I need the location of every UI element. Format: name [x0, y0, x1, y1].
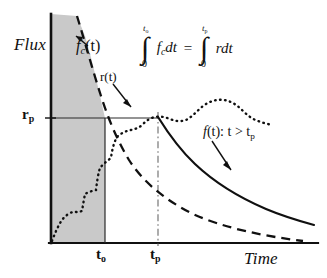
- x-tick-label-tp: tp: [150, 247, 161, 264]
- right-integral-symbol-group: tp ∫ 0: [199, 26, 212, 68]
- right-lower-limit: 0: [201, 58, 206, 69]
- rp-base: r: [22, 106, 29, 122]
- y-tick-label-rp: rp: [22, 107, 34, 124]
- flux-time-figure: Flux Time rp to tp fc(t) r(t) f(t): t > …: [0, 0, 327, 278]
- integral-equation: to ∫ 0 fcdt = tp ∫ 0 rdt: [140, 26, 233, 68]
- equals-sign: =: [181, 40, 195, 57]
- curve-label-r: r(t): [100, 70, 117, 83]
- leader-f: [212, 141, 231, 170]
- right-differential: dt: [221, 40, 233, 56]
- to-subscript: o: [101, 253, 106, 264]
- y-axis-label: Flux: [14, 36, 46, 53]
- left-integral-symbol-group: to ∫ 0: [140, 26, 153, 68]
- tp-subscript: p: [155, 253, 161, 264]
- f-tail: (t): t > t: [207, 124, 250, 139]
- curve-label-fc: fc(t): [76, 38, 100, 57]
- leader-r: [113, 84, 131, 107]
- fc-tail: (t): [85, 37, 100, 54]
- x-axis-label: Time: [244, 250, 278, 267]
- f-subscript: p: [250, 131, 255, 141]
- rp-subscript: p: [29, 113, 35, 124]
- left-differential: dt: [165, 39, 177, 55]
- left-lower-limit: 0: [142, 58, 147, 69]
- curve-label-f: f(t): t > tp: [203, 125, 255, 141]
- left-integrand: fcdt: [157, 39, 177, 57]
- right-integrand: rdt: [216, 40, 233, 57]
- x-tick-label-to: to: [96, 247, 106, 264]
